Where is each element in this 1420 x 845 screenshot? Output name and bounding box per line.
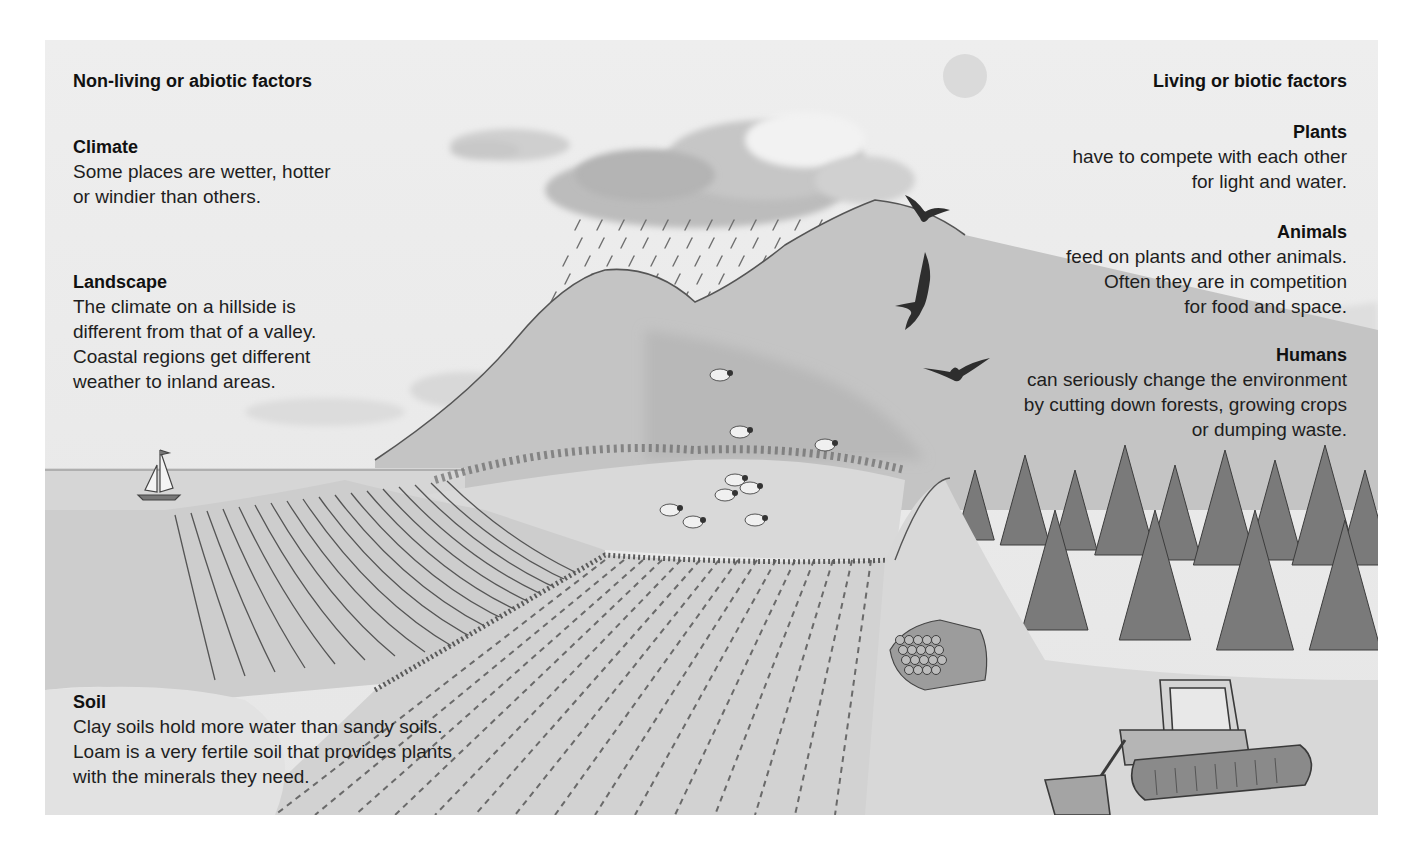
plants-text-line: for light and water. xyxy=(1072,169,1347,194)
soil-title: Soil xyxy=(73,690,452,714)
log xyxy=(929,656,938,665)
plants-title: Plants xyxy=(1072,120,1347,144)
log xyxy=(899,646,908,655)
landscape-text-line: Coastal regions get different xyxy=(73,344,316,369)
abiotic-heading: Non-living or abiotic factors xyxy=(73,68,312,94)
humans-text-line: can seriously change the environment xyxy=(1024,367,1347,392)
log xyxy=(914,636,923,645)
humans-text-line: or dumping waste. xyxy=(1024,417,1347,442)
log xyxy=(932,666,941,675)
log xyxy=(902,656,911,665)
landscape-block: Landscape The climate on a hillside is d… xyxy=(73,270,316,394)
small-cloud xyxy=(450,129,570,161)
log xyxy=(908,646,917,655)
soil-text-line: with the minerals they need. xyxy=(73,764,452,789)
climate-text-line: Some places are wetter, hotter xyxy=(73,159,331,184)
animals-text-line: Often they are in competition xyxy=(1066,269,1347,294)
soil-block: Soil Clay soils hold more water than san… xyxy=(73,690,452,789)
log xyxy=(911,656,920,665)
plants-text-line: have to compete with each other xyxy=(1072,144,1347,169)
humans-text-line: by cutting down forests, growing crops xyxy=(1024,392,1347,417)
climate-text-line: or windier than others. xyxy=(73,184,331,209)
landscape-title: Landscape xyxy=(73,270,316,294)
biotic-heading: Living or biotic factors xyxy=(1153,68,1347,94)
log xyxy=(926,646,935,655)
log xyxy=(938,656,947,665)
log xyxy=(920,656,929,665)
landscape-text-line: weather to inland areas. xyxy=(73,369,316,394)
log xyxy=(923,666,932,675)
humans-title: Humans xyxy=(1024,343,1347,367)
climate-title: Climate xyxy=(73,135,331,159)
landscape-text-line: different from that of a valley. xyxy=(73,319,316,344)
animals-text-line: for food and space. xyxy=(1066,294,1347,319)
landscape-text-line: The climate on a hillside is xyxy=(73,294,316,319)
animals-title: Animals xyxy=(1066,220,1347,244)
log xyxy=(917,646,926,655)
log xyxy=(914,666,923,675)
biotic-heading-text: Living or biotic factors xyxy=(1153,71,1347,91)
humans-block: Humans can seriously change the environm… xyxy=(1024,343,1347,442)
log xyxy=(923,636,932,645)
animals-text-line: feed on plants and other animals. xyxy=(1066,244,1347,269)
soil-text-line: Loam is a very fertile soil that provide… xyxy=(73,739,452,764)
abiotic-heading-text: Non-living or abiotic factors xyxy=(73,71,312,91)
plants-block: Plants have to compete with each other f… xyxy=(1072,120,1347,194)
log xyxy=(935,646,944,655)
log xyxy=(905,666,914,675)
climate-block: Climate Some places are wetter, hotter o… xyxy=(73,135,331,209)
log xyxy=(896,636,905,645)
log xyxy=(932,636,941,645)
soil-text-line: Clay soils hold more water than sandy so… xyxy=(73,714,452,739)
animals-block: Animals feed on plants and other animals… xyxy=(1066,220,1347,319)
log xyxy=(905,636,914,645)
sun-icon xyxy=(943,54,987,98)
